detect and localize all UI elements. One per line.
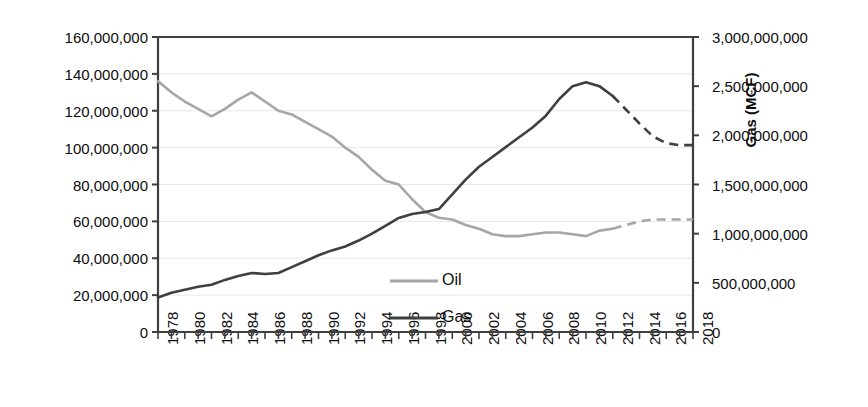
tick-marks — [152, 37, 699, 339]
plot-area — [0, 0, 868, 407]
chart-container: Oil (barrels) Gas (MCF) 020,000,00040,00… — [0, 0, 868, 407]
data-series — [158, 81, 693, 297]
legend-swatches — [390, 281, 438, 318]
gridlines — [158, 37, 693, 332]
legend-label-oil: Oil — [442, 271, 462, 289]
legend-label-gas: Gas — [442, 308, 471, 326]
